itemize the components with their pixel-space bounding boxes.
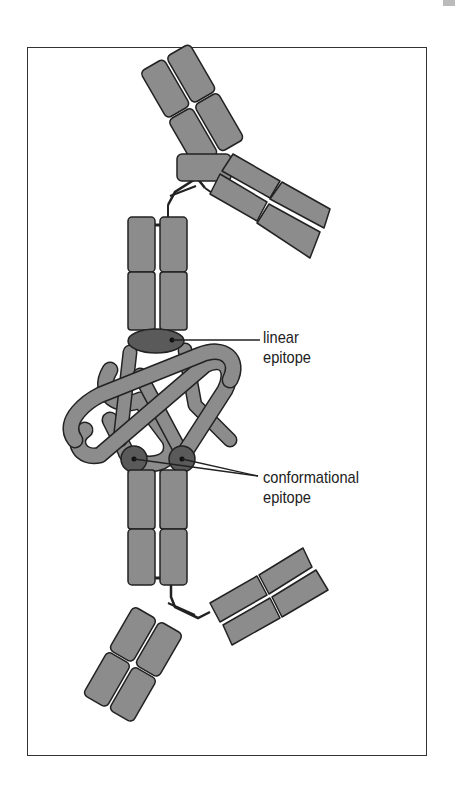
conformational-epitope-label: conformational epitope: [263, 468, 359, 508]
label-line: epitope: [263, 348, 311, 368]
antigen: [71, 350, 233, 464]
label-line: linear: [263, 328, 311, 348]
linear-epitope: [128, 329, 184, 353]
label-line: conformational: [263, 468, 359, 488]
upper-antibody: [128, 44, 330, 331]
label-line: epitope: [263, 488, 359, 508]
upper-left-fab-arm: [140, 44, 244, 168]
linear-epitope-label: linear epitope: [263, 328, 311, 368]
antibody-antigen-diagram: [0, 0, 455, 786]
